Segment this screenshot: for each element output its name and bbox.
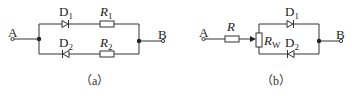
label-b-d1: D1 xyxy=(285,5,299,21)
label-a-terminal-a: A xyxy=(8,26,17,39)
label-a-d1: D1 xyxy=(59,5,73,21)
wiper-arrow-icon xyxy=(250,36,256,42)
label-b-terminal-a: A xyxy=(199,26,208,39)
resistor-r1 xyxy=(100,21,114,27)
junction-dot-b-right xyxy=(317,39,321,43)
diode-d1 xyxy=(62,20,69,28)
caption-b: （b） xyxy=(261,75,291,87)
label-b-d2: D2 xyxy=(285,36,299,52)
label-a-terminal-b: B xyxy=(158,28,167,41)
label-a-r2: R2 xyxy=(100,36,112,52)
circuit-diagrams xyxy=(0,0,352,96)
label-a-r1: R1 xyxy=(100,5,112,21)
label-b-r: R xyxy=(227,20,235,33)
label-a-d2: D2 xyxy=(59,36,73,52)
potentiometer-rw xyxy=(256,33,262,47)
caption-a: （a） xyxy=(80,75,109,87)
label-b-terminal-b: B xyxy=(336,28,345,41)
label-b-rw: RW xyxy=(264,34,280,50)
diode-d1-b xyxy=(287,20,294,28)
resistor-r xyxy=(225,36,239,42)
junction-dot-a-left xyxy=(37,37,41,41)
junction-dot-a-right xyxy=(137,39,141,43)
